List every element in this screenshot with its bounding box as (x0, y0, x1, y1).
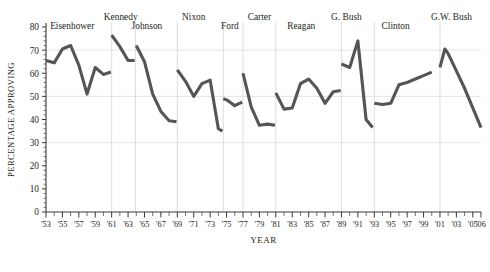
y-axis: 01020304050607080 (30, 22, 46, 217)
chart-canvas: 01020304050607080 '53'55'57'59'61'63'65'… (0, 0, 490, 272)
x-tick-label-1995: '95 (386, 220, 396, 229)
x-tick-label-1991: '91 (353, 220, 363, 229)
x-tick-label-1965: '65 (140, 220, 150, 229)
x-tick-label-1973: '73 (205, 220, 215, 229)
x-axis: '53'55'57'59'61'63'65'67'69'71'73'75'77'… (41, 212, 486, 229)
x-tick-label-1955: '55 (58, 220, 68, 229)
annotation-carter: Carter (248, 12, 272, 22)
x-tick-label-2003: '03 (451, 220, 461, 229)
president-annotations: EisenhowerKennedyJohnsonNixonFordCarterR… (50, 12, 472, 31)
annotation-g-w-bush: G.W. Bush (431, 12, 472, 22)
x-tick-label-1985: '85 (304, 220, 314, 229)
x-tick-label-1979: '79 (254, 220, 264, 229)
x-tick-label-1997: '97 (402, 220, 412, 229)
y-tick-label-60: 60 (30, 69, 40, 79)
annotation-clinton: Clinton (382, 21, 410, 31)
x-tick-label-1953: '53 (41, 220, 51, 229)
y-tick-label-80: 80 (30, 22, 40, 32)
x-tick-label-1975: '75 (222, 220, 232, 229)
y-tick-label-50: 50 (30, 92, 40, 102)
x-tick-label-2001: '01 (435, 220, 445, 229)
x-tick-label-1971: '71 (189, 220, 199, 229)
x-tick-label-1977: '77 (238, 220, 248, 229)
data-series-lines (46, 35, 481, 131)
x-tick-label-1957: '57 (74, 220, 84, 229)
x-axis-title: YEAR (250, 235, 277, 245)
annotation-johnson: Johnson (132, 21, 163, 31)
approval-rating-chart: 01020304050607080 '53'55'57'59'61'63'65'… (0, 0, 490, 272)
x-tick-label-1969: '69 (172, 220, 182, 229)
series-line-kennedy (112, 35, 135, 60)
x-tick-label-1989: '89 (337, 220, 347, 229)
x-tick-label-1983: '83 (287, 220, 297, 229)
y-tick-label-40: 40 (30, 115, 40, 125)
x-tick-label-2006: '06 (476, 220, 486, 229)
annotation-g-bush: G. Bush (331, 12, 362, 22)
axis-titles: PERCENTAGE APPROVINGYEAR (6, 62, 277, 245)
x-tick-label-1967: '67 (156, 220, 166, 229)
annotation-nixon: Nixon (182, 12, 206, 22)
x-tick-label-1981: '81 (271, 220, 281, 229)
y-tick-label-70: 70 (30, 46, 40, 56)
series-line-eisenhower (46, 46, 111, 95)
y-tick-label-10: 10 (30, 184, 40, 194)
x-tick-label-1963: '63 (123, 220, 133, 229)
x-tick-label-1999: '99 (419, 220, 429, 229)
series-line-ford (223, 99, 242, 106)
x-tick-label-1961: '61 (107, 220, 117, 229)
series-line-g-bush (341, 41, 372, 128)
series-line-johnson (136, 46, 176, 122)
series-line-reagan (276, 79, 341, 109)
series-line-carter (243, 73, 275, 125)
y-tick-label-0: 0 (34, 207, 39, 217)
y-axis-title: PERCENTAGE APPROVING (6, 62, 16, 177)
gridlines (46, 50, 481, 143)
y-tick-label-30: 30 (30, 138, 40, 148)
term-divider-lines (112, 22, 440, 212)
series-line-nixon (177, 70, 222, 131)
x-tick-label-1987: '87 (320, 220, 330, 229)
y-tick-label-20: 20 (30, 161, 40, 171)
annotation-reagan: Reagan (287, 21, 315, 31)
x-tick-label-1959: '59 (90, 220, 100, 229)
annotation-eisenhower: Eisenhower (50, 21, 95, 31)
annotation-ford: Ford (221, 21, 239, 31)
series-line-clinton (374, 72, 431, 104)
series-line-g-w-bush (440, 49, 481, 128)
x-tick-label-1993: '93 (369, 220, 379, 229)
